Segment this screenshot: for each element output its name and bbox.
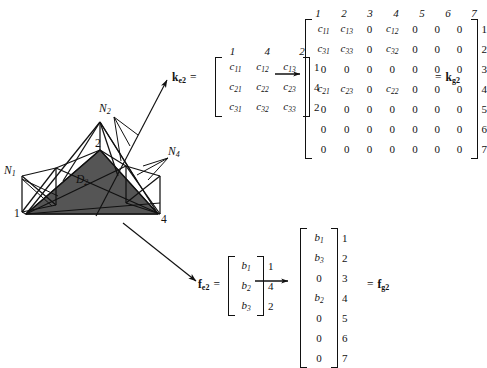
matrix-row-label: 2 [342, 248, 348, 268]
matrix-cell-value: 0 [389, 103, 395, 115]
bracket-left [215, 57, 222, 117]
matrix-row: b1 [235, 256, 257, 276]
matrix-cell: 0 [448, 99, 470, 119]
matrix-col-header: 1 [215, 46, 250, 57]
matrix-cell-value: 0 [457, 43, 463, 55]
matrix-cell: c11 [312, 19, 335, 39]
matrix-cell: c31 [312, 39, 335, 59]
element-load-vector: b1b2b3 142 [228, 256, 274, 316]
matrix-row: 0000000 [312, 99, 471, 119]
matrix-cell-value: 0 [457, 103, 463, 115]
matrix-cell-value: 0 [412, 63, 418, 75]
element-stiffness-equals: = [190, 71, 197, 83]
matrix-cell: 0 [307, 348, 331, 368]
matrix-cell: 0 [358, 19, 380, 39]
bracket-left [228, 256, 235, 316]
matrix-row-label: 7 [482, 139, 487, 159]
matrix-cell: 0 [335, 139, 358, 159]
matrix-cell-value: c12 [386, 22, 398, 34]
matrix-cell-value: c13 [283, 60, 295, 72]
matrix-row: c11c130c12000 [312, 19, 471, 39]
matrix-cell-value: 0 [367, 63, 373, 75]
matrix-cell-value: 0 [316, 312, 322, 324]
matrix-cell-value: 0 [316, 272, 322, 284]
matrix-cell-value: 0 [412, 103, 418, 115]
matrix-row: c21c22c23 [222, 77, 303, 97]
matrix-col-header: 6 [435, 8, 461, 19]
matrix-cell-value: 0 [367, 143, 373, 155]
bracket-right [331, 228, 338, 368]
element-load-equals: = [213, 278, 220, 290]
matrix-row-label: 5 [342, 308, 348, 328]
patch-label-N4-sub: 4 [176, 150, 180, 159]
matrix-cell: b2 [307, 288, 331, 308]
matrix-cell-value: 0 [412, 23, 418, 35]
matrix-cell: 0 [312, 119, 335, 139]
matrix-cell: 0 [358, 39, 380, 59]
global-stiffness-symbol: kg2 [446, 71, 460, 83]
element-stiffness-symbol: ke2 [172, 71, 186, 83]
matrix-row-label: 3 [482, 59, 487, 79]
matrix-cell: c11 [222, 57, 249, 77]
domain-label-sub: 2 [84, 178, 88, 187]
matrix-cell-value: 0 [434, 103, 440, 115]
matrix-cell: 0 [358, 119, 380, 139]
element-stiffness-colheaders: 142 [215, 46, 320, 57]
matrix-cell: b2 [235, 276, 257, 296]
matrix-cell-value: 0 [367, 23, 373, 35]
matrix-cell: b3 [235, 296, 257, 316]
matrix-cell: c31 [222, 97, 249, 117]
matrix-row-label: 6 [342, 328, 348, 348]
patch-label-N1-base: N [4, 164, 12, 176]
global-load-vector: b1b30b2000 1234567 [300, 228, 348, 368]
matrix-row: b2 [307, 288, 331, 308]
matrix-cell: 0 [381, 99, 404, 119]
matrix-row-label: 2 [268, 296, 274, 316]
matrix-row-label: 4 [268, 276, 274, 296]
matrix-cell: 0 [335, 59, 358, 79]
element-load-rowlabels: 142 [268, 256, 274, 316]
matrix-cell: 0 [404, 19, 426, 39]
global-load-rowlabels: 1234567 [342, 228, 348, 368]
matrix-row-label: 1 [268, 256, 274, 276]
matrix-col-header: 4 [250, 46, 285, 57]
matrix-cell: 0 [404, 59, 426, 79]
matrix-cell: 0 [312, 99, 335, 119]
matrix-cell: 0 [307, 328, 331, 348]
matrix-row: c11c12c13 [222, 57, 303, 77]
matrix-cell: c13 [335, 19, 358, 39]
matrix-col-header: 4 [383, 8, 409, 19]
matrix-col-header: 7 [461, 8, 487, 19]
matrix-cell-value: c33 [283, 100, 295, 112]
matrix-cell-value: 0 [434, 123, 440, 135]
matrix-cell-value: c31 [229, 100, 241, 112]
matrix-row-label: 6 [482, 119, 487, 139]
vertex-label-1: 1 [14, 208, 20, 220]
matrix-cell-value: 0 [321, 123, 327, 135]
matrix-row: 0 [307, 268, 331, 288]
matrix-cell-value: 0 [389, 143, 395, 155]
matrix-cell: 0 [426, 39, 448, 59]
matrix-cell: c23 [335, 79, 358, 99]
matrix-row: 0 [307, 308, 331, 328]
bracket-right [471, 19, 478, 159]
matrix-row-label: 3 [342, 268, 348, 288]
global-stiffness-label: = kg2 [435, 68, 460, 85]
matrix-cell-value: b2 [314, 291, 323, 303]
matrix-cell: c33 [335, 39, 358, 59]
matrix-cell-value: c12 [256, 60, 268, 72]
matrix-row-label: 4 [342, 288, 348, 308]
global-load-symbol: fg2 [378, 278, 390, 290]
matrix-cell-value: 0 [344, 143, 350, 155]
matrix-cell-value: 0 [434, 143, 440, 155]
domain-label-D2: D2 [76, 174, 88, 187]
matrix-cell: c12 [249, 57, 276, 77]
matrix-row-label: 1 [482, 19, 487, 39]
matrix-cell-value: b3 [314, 251, 323, 263]
matrix-cell-value: c11 [318, 22, 330, 34]
matrix-cell: 0 [335, 99, 358, 119]
element-stiffness-colheader-row: 142 [215, 46, 320, 57]
matrix-row: 0000000 [312, 139, 471, 159]
matrix-cell: c13 [276, 57, 303, 77]
matrix-cell-value: c13 [341, 22, 353, 34]
